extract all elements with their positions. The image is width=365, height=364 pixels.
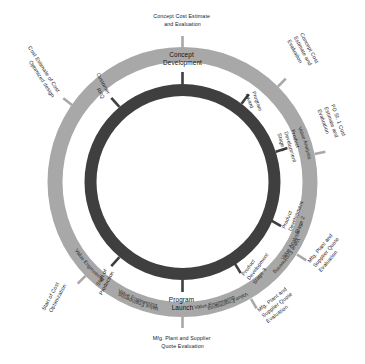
wheel-svg: Concept Cost Estimate and Evaluation Con… [0, 0, 365, 364]
outside-label-top-line-0: Concept Cost Estimate [153, 13, 210, 19]
inner-ring-band [85, 84, 281, 280]
outside-label-top-line-1: and Evaluation [164, 21, 201, 27]
inner-tick-pd-stage-2 [271, 220, 282, 226]
stage-label-program-launch-line-0: Program [169, 296, 194, 304]
outside-label-right: PD St. 1 Cost Estimate and Evaluation [317, 103, 348, 143]
outer-tick-lower-right [297, 255, 306, 261]
outer-tick-upper-left [63, 98, 72, 105]
outside-label-top: Concept Cost Estimate and Evaluation [153, 13, 211, 27]
inner-ring-group [85, 84, 281, 280]
inner-tick-customer-rfq [111, 98, 119, 107]
process-wheel-diagram: Concept Cost Estimate and Evaluation Con… [0, 0, 365, 364]
outside-label-upper-left: Cost Estimate of Cost Optimized design [21, 45, 62, 99]
inner-tick-start-of-production [111, 257, 119, 266]
stage-label-program-launch-line-1: Launch [172, 304, 194, 311]
stage-label-concept-development-line-1: Development [163, 59, 202, 67]
stage-label-concept-development-line-0: Concept [169, 51, 194, 59]
outside-label-lower-left: Start of Cost Optimization [40, 280, 67, 315]
outer-tick-right [315, 152, 326, 154]
outside-label-bottom: Mfg. Plant and Supplier Quote Evaluation [153, 335, 212, 349]
outside-label-bottom-line-1: Quote Evaluation [161, 343, 204, 349]
stage-label-program-launch: Program Launch [169, 296, 196, 311]
outer-tick-lower-left [78, 276, 86, 284]
outside-label-bottom-line-0: Mfg. Plant and Supplier [153, 335, 211, 341]
outer-tick-upper-right [278, 79, 286, 87]
outer-tick-lower-right-2 [251, 299, 257, 309]
outside-label-lower-right: Mfg. Plant and Supplier Quote Evaluation [306, 230, 346, 273]
outside-label-upper-right: Concept Cost Estimate and Evaluation [286, 32, 321, 73]
inner-tick-pd-stage-3 [234, 263, 240, 273]
